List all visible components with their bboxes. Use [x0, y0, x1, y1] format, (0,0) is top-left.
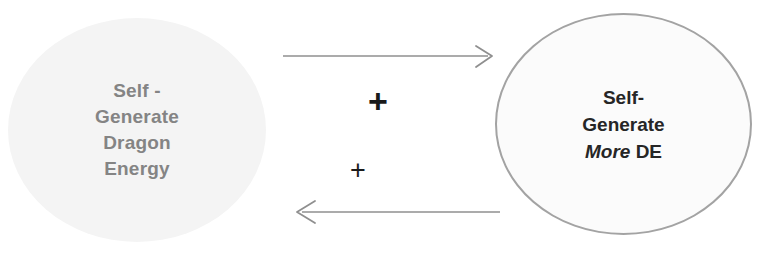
node-right-line-2: Generate [582, 111, 664, 138]
link-left-to-right-arrow[interactable] [283, 46, 492, 67]
node-left-line-4: Energy [104, 156, 170, 182]
link-right-to-left-arrow[interactable] [297, 201, 500, 223]
polarity-plus-top: + [358, 84, 398, 118]
node-left-line-2: Generate [95, 104, 179, 130]
diagram-canvas: Self - Generate Dragon Energy Self- Gene… [0, 0, 784, 260]
node-right-line-3: More DE [585, 138, 662, 165]
node-right-line-1: Self- [603, 84, 644, 111]
node-right-line-3-regular: DE [630, 141, 662, 162]
node-self-generate-more-de[interactable]: Self- Generate More DE [495, 13, 752, 235]
link-arrows-group [270, 40, 515, 225]
polarity-plus-bottom: + [340, 157, 376, 184]
node-self-generate-dragon-energy[interactable]: Self - Generate Dragon Energy [8, 18, 266, 242]
node-right-line-3-italic: More [585, 141, 630, 162]
node-left-line-1: Self - [113, 78, 161, 104]
node-left-line-3: Dragon [103, 130, 171, 156]
